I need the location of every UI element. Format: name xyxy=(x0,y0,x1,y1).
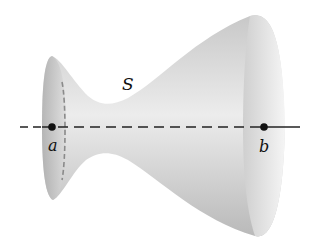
label-a: a xyxy=(48,136,58,155)
point-b xyxy=(260,123,268,131)
surface-diagram: a b S xyxy=(0,0,318,243)
label-surface-S: S xyxy=(122,74,134,94)
label-b: b xyxy=(259,137,269,156)
point-a xyxy=(48,123,56,131)
